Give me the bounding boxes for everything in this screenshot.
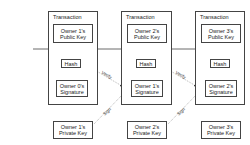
verify-label: Verify <box>175 70 187 80</box>
public-key-label: Owner 2's Public Key <box>134 28 160 40</box>
hash-label: Hash <box>214 61 227 67</box>
hash-box: Hash <box>210 59 230 68</box>
private-key-box-2: Owner 2's Private Key <box>127 121 167 139</box>
public-key-box: Owner 3's Public Key <box>201 24 241 43</box>
public-key-box: Owner 2's Public Key <box>127 24 167 43</box>
transaction-title: Transaction <box>126 14 155 20</box>
hash-label: Hash <box>140 61 153 67</box>
signature-box: Owner 1's Signature <box>131 80 163 97</box>
sign-label: Sign <box>102 107 112 117</box>
signature-label: Owner 1's Signature <box>135 83 160 95</box>
hash-box: Hash <box>136 59 156 68</box>
signature-box: Owner 2's Signature <box>205 80 237 97</box>
public-key-label: Owner 3's Public Key <box>208 28 234 40</box>
private-key-box-1: Owner 1's Private Key <box>53 121 93 139</box>
signature-label: Owner 0's Signature <box>60 83 85 95</box>
hash-label: Hash <box>65 61 78 67</box>
sign-label: Sign <box>176 107 186 117</box>
transaction-title: Transaction <box>200 14 229 20</box>
public-key-box: Owner 1's Public Key <box>53 24 93 43</box>
private-key-label: Owner 2's Private Key <box>133 124 161 136</box>
signature-box: Owner 0's Signature <box>56 80 88 97</box>
private-key-label: Owner 3's Private Key <box>207 124 235 136</box>
verify-label: Verify <box>101 70 113 80</box>
hash-box: Hash <box>61 59 81 68</box>
signature-label: Owner 2's Signature <box>209 83 234 95</box>
private-key-box-3: Owner 3's Private Key <box>201 121 241 139</box>
transaction-title: Transaction <box>53 14 82 20</box>
private-key-label: Owner 1's Private Key <box>59 124 87 136</box>
public-key-label: Owner 1's Public Key <box>60 28 86 40</box>
